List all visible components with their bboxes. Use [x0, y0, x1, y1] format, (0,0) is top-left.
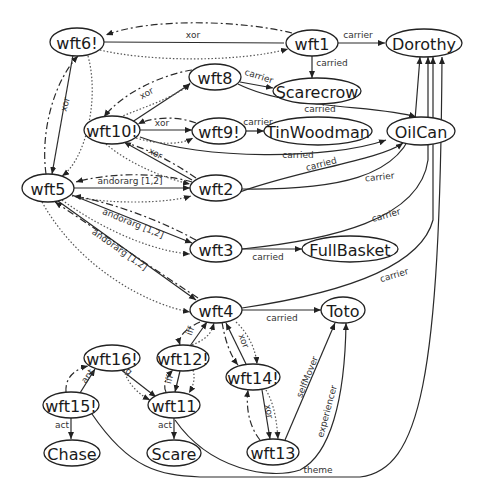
node-label: wft4 [199, 302, 234, 321]
edge-dashed [45, 56, 78, 174]
node-label: FullBasket [309, 241, 390, 260]
edge-label: xor [237, 333, 251, 350]
edge-label: carrier [343, 30, 373, 40]
node-label: Chase [47, 445, 96, 464]
node-label: OilCan [395, 123, 448, 142]
edge-label: act [158, 420, 172, 430]
node-wft1: wft1 [286, 30, 338, 56]
node-label: wft8 [198, 69, 233, 88]
edge-dotted [100, 49, 288, 59]
edge-iff [175, 371, 180, 392]
edge-label: ant [79, 367, 96, 385]
node-dorothy: Dorothy [386, 29, 462, 57]
node-wft8: wft8 [189, 64, 241, 90]
edge-label: carrier [371, 206, 402, 224]
node-scare: Scare [147, 440, 201, 466]
node-label: TinWoodman [265, 123, 370, 142]
node-label: wft2 [199, 180, 234, 199]
node-label: wft1 [295, 35, 330, 54]
edge-label: carrier [365, 170, 396, 183]
node-label: Scare [152, 445, 197, 464]
node-label: wft14! [227, 369, 278, 388]
node-label: wft13 [250, 444, 295, 463]
edge-label: xor [147, 146, 165, 162]
node-label: Dorothy [392, 35, 456, 54]
node-scarecrow: Scarecrow [273, 78, 361, 104]
node-wft3: wft3 [190, 236, 242, 262]
node-wft11: wft11 [148, 392, 200, 418]
node-label: wft11 [151, 397, 196, 416]
edge-dotted [120, 83, 190, 117]
node-tinwoodman: TinWoodman [264, 117, 372, 145]
node-label: wft16! [86, 350, 137, 369]
edge-label: xor [138, 85, 156, 101]
node-wft5: wft5 [22, 174, 74, 202]
node-label: wft10! [86, 122, 137, 141]
node-label: wft3 [199, 241, 234, 260]
semantic-network-diagram: xorcarriercarriedcarriercarriedcarrierca… [0, 0, 478, 495]
node-wft12: wft12! [157, 345, 209, 371]
edge-label: carried [266, 313, 297, 323]
edge-label: xor [58, 96, 71, 113]
edge-label: carried [316, 58, 347, 68]
edge-label: xor [186, 30, 201, 40]
nodes-layer: wft6!wft1Dorothywft8Scarecrowwft10!wft9!… [22, 28, 462, 466]
edge-label: carrier [379, 266, 410, 284]
edge-label: carried [252, 252, 283, 262]
edge-dotted [62, 200, 190, 254]
edge-label: andorarg [1,2] [97, 176, 162, 186]
node-toto: Toto [321, 297, 365, 323]
edge-xor [52, 55, 73, 174]
node-wft6: wft6! [50, 28, 104, 56]
node-wft13: wft13 [247, 439, 299, 465]
edge-label: carried [304, 104, 335, 114]
edge-label: iff [184, 324, 197, 336]
edge-label: carried [282, 150, 313, 160]
edge-label: andorarg [1,2] [101, 206, 165, 240]
edge-label: xor [263, 404, 275, 420]
node-wft2: wft2 [190, 175, 242, 201]
node-label: wft6! [56, 34, 97, 53]
node-label: wft15! [45, 397, 96, 416]
node-label: wft5 [31, 180, 66, 199]
edge-dotted [189, 370, 194, 393]
edge-label: xor [155, 118, 170, 128]
node-label: wft9! [198, 123, 239, 142]
edge-dotted [62, 56, 92, 176]
edge-label: theme [303, 465, 333, 475]
node-fullbasket: FullBasket [302, 236, 398, 262]
node-wft9: wft9! [192, 118, 246, 144]
edge-xor [104, 42, 284, 43]
node-oilcan: OilCan [387, 117, 455, 145]
edge-dashed [247, 390, 260, 440]
node-label: wft12! [157, 350, 208, 369]
edge-label: selfMover [294, 354, 320, 399]
node-wft14: wft14! [226, 364, 280, 390]
edge-label: experiencer [315, 384, 339, 439]
edge-dotted [192, 323, 214, 345]
edge-label: carrier [243, 67, 274, 86]
edge-dotted [72, 196, 191, 202]
node-wft15: wft15! [43, 392, 99, 418]
node-wft16: wft16! [84, 345, 140, 371]
edge-label: act [55, 420, 69, 430]
node-label: Toto [326, 302, 360, 321]
node-chase: Chase [44, 440, 100, 466]
node-wft10: wft10! [84, 116, 140, 144]
node-label: Scarecrow [276, 83, 359, 102]
node-wft4: wft4 [190, 297, 242, 323]
